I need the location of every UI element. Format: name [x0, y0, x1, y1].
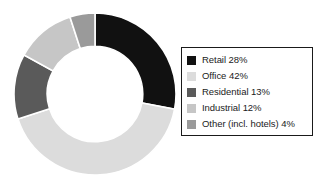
donut-slice-retail — [95, 13, 176, 109]
chart-legend: Retail 28% Office 42% Residential 13% In… — [181, 47, 313, 136]
legend-label-office: Office 42% — [202, 71, 248, 81]
legend-item-industrial: Industrial 12% — [187, 100, 312, 116]
legend-item-retail: Retail 28% — [187, 52, 312, 68]
legend-label-industrial: Industrial 12% — [202, 103, 262, 113]
legend-label-other: Other (incl. hotels) 4% — [202, 119, 295, 129]
legend-swatch-retail — [187, 56, 196, 65]
legend-swatch-other — [187, 120, 196, 129]
donut-chart-figure: Retail 28% Office 42% Residential 13% In… — [0, 0, 324, 184]
legend-label-residential: Residential 13% — [202, 87, 270, 97]
legend-item-office: Office 42% — [187, 68, 312, 84]
legend-item-other: Other (incl. hotels) 4% — [187, 116, 312, 132]
legend-label-retail: Retail 28% — [202, 55, 247, 65]
legend-swatch-residential — [187, 88, 196, 97]
legend-swatch-office — [187, 72, 196, 81]
legend-item-residential: Residential 13% — [187, 84, 312, 100]
donut-slice-office — [18, 103, 175, 175]
legend-swatch-industrial — [187, 104, 196, 113]
donut-chart-svg — [12, 9, 178, 179]
donut-chart-plot — [12, 9, 178, 179]
